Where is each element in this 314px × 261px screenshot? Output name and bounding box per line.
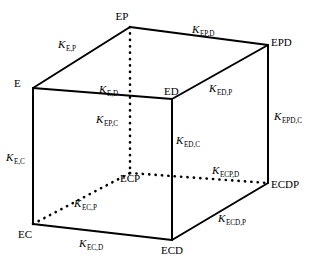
vertex-label-ecp: ECP [120,172,140,184]
vertex-label-epd: EPD [271,36,292,48]
rate-constant-label-k_ec_d: KEC,D [78,237,103,252]
rate-constant-subscript: ED,C [184,141,200,149]
rate-constant-label-k_ed_p: KED,P [208,82,232,97]
cube-diagram-svg: EEPEDEPDECECPECDECDP KE,PKEP,DKE,DKED,PK… [0,0,314,261]
vertex-label-ed: ED [164,85,179,97]
vertex-labels-layer: EEPEDEPDECECPECDECDP [14,10,299,256]
rate-constant-symbol: K [98,83,107,95]
rate-constant-label-k_ec_p: KEC,P [73,197,97,212]
cube-edge-ec-ecp [33,173,130,224]
rate-constant-label-k_ecp_d: KECP,D [211,164,239,179]
rate-constant-symbol: K [78,237,87,249]
rate-constant-subscript: ECP,D [220,171,239,179]
vertex-label-ecdp: ECDP [271,178,299,190]
vertex-label-ecd: ECD [161,244,183,256]
edges-layer [33,27,268,240]
vertex-label-ep: EP [116,10,129,22]
rate-constant-subscript: EPD,C [282,117,302,125]
vertex-label-ec: EC [18,228,32,240]
rate-constant-subscript: EP,D [200,30,215,38]
rate-constant-label-k_e_d: KE,D [98,83,118,98]
rate-constant-symbol: K [211,164,220,176]
rate-constant-symbol: K [175,134,184,146]
rate-constant-subscript: E,P [66,45,76,53]
rate-constant-subscript: EC,D [87,244,103,252]
rate-constant-symbol: K [57,38,66,50]
rate-constant-symbol: K [191,23,200,35]
rate-constant-label-k_e_c: KE,C [5,151,25,166]
rate-constant-symbol: K [73,197,82,209]
rate-constant-symbol: K [273,110,282,122]
rate-constant-symbol: K [217,212,226,224]
rate-constant-symbol: K [208,82,217,94]
vertex-label-e: E [14,77,21,89]
rate-constant-symbol: K [95,113,104,125]
rate-constant-label-k_epd_c: KEPD,C [273,110,302,125]
rate-constant-subscript: ECD,P [226,219,246,227]
rate-constant-labels-layer: KE,PKEP,DKE,DKED,PKEPD,CKEP,CKED,CKE,CKE… [5,23,302,252]
rate-constant-label-k_e_p: KE,P [57,38,76,53]
cube-diagram-container: EEPEDEPDECECPECDECDP KE,PKEP,DKE,DKED,PK… [0,0,314,261]
rate-constant-label-k_ed_c: KED,C [175,134,200,149]
rate-constant-subscript: E,C [14,158,25,166]
rate-constant-subscript: EC,P [82,204,97,212]
rate-constant-subscript: E,D [107,90,118,98]
cube-edge-ecp-ecdp [130,173,268,183]
rate-constant-symbol: K [5,151,14,163]
rate-constant-subscript: ED,P [217,89,232,97]
cube-edge-e-ep [33,27,130,88]
rate-constant-label-k_ep_c: KEP,C [95,113,118,128]
rate-constant-subscript: EP,C [104,120,118,128]
cube-edge-ec-ecd [33,224,172,240]
rate-constant-label-k_ecd_p: KECD,P [217,212,246,227]
